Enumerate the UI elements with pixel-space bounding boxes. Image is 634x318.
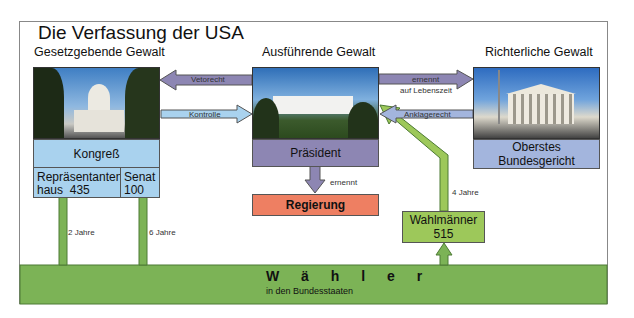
- appoints-gov-label: ernennt: [330, 178, 357, 187]
- supreme-court-photo: [473, 67, 600, 139]
- supreme-court-box: Oberstes Bundesgericht: [473, 139, 600, 169]
- senate-box: Senat100: [120, 167, 160, 198]
- electors-count: 515: [433, 227, 453, 241]
- supreme-court-line1: Oberstes: [512, 140, 561, 154]
- president-term-label: 4 Jahre: [452, 188, 479, 197]
- congress-box: Kongreß: [33, 139, 160, 168]
- senate-label: Senat: [124, 170, 155, 184]
- voters-label: W ä h l e r: [266, 268, 431, 284]
- president-box: Präsident: [252, 139, 379, 167]
- senate-count: 100: [124, 183, 144, 197]
- appoints-lifetime-label: auf Lebenszeit: [400, 86, 452, 95]
- appoints-judges-label: ernennt: [412, 75, 439, 84]
- electors-label: Wahlmänner: [410, 213, 478, 227]
- house-term-label: 2 Jahre: [68, 228, 95, 237]
- white-house-photo: [252, 67, 379, 139]
- control-label: Kontrolle: [189, 110, 221, 119]
- house-label: Repräsentanten-: [37, 170, 126, 184]
- supreme-court-line2: Bundesgericht: [498, 154, 575, 168]
- house-count: 435: [70, 183, 90, 197]
- electors-box: Wahlmänner 515: [402, 211, 485, 243]
- veto-label: Vetorecht: [191, 75, 225, 84]
- capitol-photo: [33, 67, 160, 139]
- voters-sub-label: in den Bundesstaaten: [266, 286, 353, 296]
- house-box: Repräsentanten-haus 435: [33, 167, 121, 198]
- senate-term-label: 6 Jahre: [149, 228, 176, 237]
- impeachment-label: Anklagerecht: [404, 110, 451, 119]
- house-label-2: haus: [37, 183, 63, 197]
- government-box: Regierung: [252, 194, 379, 216]
